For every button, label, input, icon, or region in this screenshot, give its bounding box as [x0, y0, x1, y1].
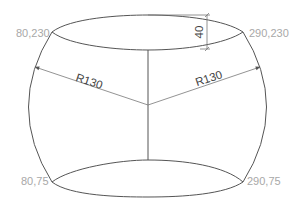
coord-label-top-left: 80,230 — [16, 27, 50, 39]
coord-label-bottom-left: 80,75 — [21, 175, 49, 187]
right-radius-label: R130 — [194, 68, 224, 88]
coord-label-top-right: 290,230 — [249, 27, 289, 39]
left-side-arc — [29, 32, 53, 182]
bottom-ellipse — [52, 160, 243, 197]
right-side-arc — [243, 32, 267, 182]
left-radius-label: R130 — [74, 71, 104, 91]
barrel-diagram: 40 R130 R130 80,230 290,230 80,75 290,75 — [0, 0, 299, 208]
top-ellipse — [52, 15, 243, 50]
coord-label-bottom-right: 290,75 — [247, 175, 281, 187]
dimension-label-40: 40 — [193, 26, 205, 39]
